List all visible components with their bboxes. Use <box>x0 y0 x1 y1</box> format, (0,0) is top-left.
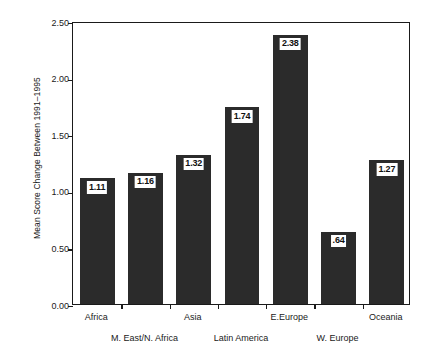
x-axis-tick-mark <box>170 304 171 309</box>
x-axis-tick-mark <box>314 304 315 309</box>
x-axis-category-label: M. East/N. Africa <box>111 334 178 343</box>
bar-value-label: 1.32 <box>183 158 204 171</box>
bar: 1.16 <box>128 173 163 304</box>
plot-area: 0.000.501.001.502.002.50 1.111.161.321.7… <box>72 22 410 305</box>
bar: 1.27 <box>369 160 404 304</box>
bar: 2.38 <box>273 35 308 304</box>
x-axis-category-label: E.Europe <box>271 313 309 322</box>
x-axis-category-label: Africa <box>85 313 108 322</box>
x-axis-tick-mark <box>363 304 364 309</box>
bar-series: 1.111.161.321.742.38.641.27 <box>73 23 409 304</box>
x-axis-tick-mark <box>121 304 122 309</box>
x-axis-category-label: Latin America <box>214 334 269 343</box>
x-axis-category-label: Asia <box>184 313 202 322</box>
bar-value-label: 1.11 <box>87 181 107 194</box>
bar: 1.74 <box>225 107 260 304</box>
bar-value-label: 1.27 <box>376 163 397 176</box>
bar: .64 <box>321 232 356 304</box>
x-axis-tick-mark <box>218 304 219 309</box>
bar-value-label: 1.74 <box>232 110 253 123</box>
y-axis-title: Mean Score Change Between 1991–1995 <box>26 13 48 303</box>
bar-chart-figure: Mean Score Change Between 1991–1995 0.00… <box>0 0 427 364</box>
x-axis-category-label: W. Europe <box>317 334 359 343</box>
bar-value-label: .64 <box>331 235 347 248</box>
y-axis-tick-mark <box>68 306 73 307</box>
x-axis-tick-mark <box>266 304 267 309</box>
bar: 1.11 <box>80 178 115 304</box>
bar: 1.32 <box>176 155 211 304</box>
x-axis-category-label: Oceania <box>369 313 403 322</box>
bar-value-label: 1.16 <box>135 176 156 189</box>
bar-value-label: 2.38 <box>280 38 301 51</box>
